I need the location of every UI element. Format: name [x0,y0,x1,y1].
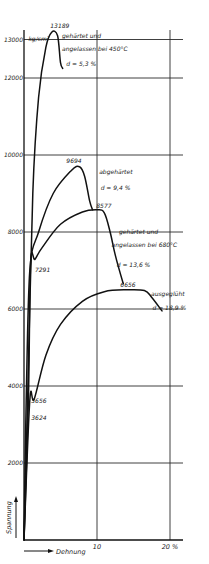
y-tick-label: 10000 [4,151,23,158]
x-axis-arrowhead-icon [48,549,54,553]
annotation-label: d = 5,3 % [66,60,96,67]
y-tick-label: 2000 [8,459,23,466]
annotation-label: 13189 [50,22,69,29]
annotation-label: d = 18,9 % [152,304,186,311]
annotation-label: kg/cm² [28,35,49,43]
y-tick-label: 13000 [4,36,23,43]
annotation-label: d = 9,4 % [101,184,131,191]
y-axis-label: Spannung [5,501,13,534]
grid-lines [24,30,183,540]
axis-labels: Spannung Dehnung [5,496,86,556]
annotation-label: 6656 [120,281,135,288]
annotation-label: 9694 [66,157,81,164]
y-tick-labels: 2000400060008000100001200013000 [4,36,23,467]
annotation-label: gehärtet und [119,228,158,236]
y-tick-label: 4000 [8,382,23,389]
annotation-label: 7291 [35,266,50,273]
annotation-label: ausgeglüht [151,290,185,298]
x-tick-label: 10 [93,543,101,551]
y-tick-label: 8000 [8,228,23,235]
annotation-label: 8577 [96,202,111,209]
y-axis-arrowhead-icon [14,496,18,502]
curve-series-2 [24,210,123,540]
curve-series-1 [24,166,93,540]
annotation-label: abgehärtet [99,168,133,176]
curves [24,31,162,540]
annotation-label: angelassen bei 680°C [112,241,179,249]
annotation-label: gehärtet und [62,32,101,40]
y-tick-label: 6000 [8,305,23,312]
x-tick-labels: 1020 % [93,543,178,551]
annotation-label: angelassen bei 450°C [62,45,129,53]
stress-strain-chart: 2000400060008000100001200013000 1020 % 1… [0,0,209,564]
annotation-label: d = 13,6 % [117,261,151,268]
annotation-label: 3624 [31,414,46,421]
y-tick-label: 12000 [4,74,23,81]
axes [24,30,183,540]
x-tick-label: 20 % [162,543,179,551]
x-axis-label: Dehnung [56,548,86,556]
annotation-label: 3656 [31,397,46,404]
